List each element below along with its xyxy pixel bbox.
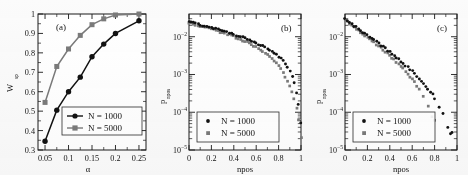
data-point [390, 53, 393, 56]
panel-c-ylabel: p npos [313, 89, 327, 104]
data-point [348, 21, 351, 24]
data-point [250, 40, 253, 43]
data-point [407, 73, 410, 76]
b-ytick-label: 10−2 [173, 31, 187, 42]
data-point [282, 59, 285, 62]
panel-a-ytick-label: 0.8 [25, 49, 35, 58]
data-point [78, 74, 83, 79]
c-ytick-label: 10−3 [329, 68, 343, 79]
data-point [402, 62, 405, 65]
data-point [297, 103, 300, 106]
panel-a-ytick-label: 0.3 [25, 146, 35, 155]
data-point [415, 75, 418, 78]
svg-text:−5: −5 [181, 144, 187, 150]
c-ytick-label: 10−2 [329, 31, 343, 42]
data-point [372, 38, 375, 41]
data-point [395, 57, 398, 60]
c-xtick-label: 0.6 [407, 154, 417, 163]
svg-text:−5: −5 [337, 144, 343, 150]
data-point [424, 85, 427, 88]
c-xtick-label: 0.2 [362, 154, 372, 163]
data-point [401, 67, 404, 70]
data-point [422, 82, 425, 85]
panel-b: 10−210−310−410−5 00.20.40.60.81 (b) p np… [155, 0, 311, 175]
data-point [261, 50, 264, 53]
data-point [43, 100, 48, 105]
data-point [208, 26, 211, 29]
legend-marker-n5000 [362, 131, 366, 135]
c-xtick-label: 0.8 [429, 154, 439, 163]
legend-marker-n5000 [72, 125, 77, 130]
data-point [90, 22, 95, 27]
data-point [268, 49, 271, 52]
panel-b-tag: (b) [281, 23, 292, 33]
data-point [252, 45, 255, 48]
data-point [442, 112, 445, 115]
data-point [422, 95, 425, 98]
data-point [413, 80, 416, 83]
b-xtick-label: 0.8 [273, 154, 283, 163]
data-point [194, 24, 197, 27]
panel-a-ylabel: W sp [5, 74, 19, 92]
svg-text:10: 10 [329, 146, 337, 155]
data-point [411, 69, 414, 72]
legend-marker-n1000 [362, 119, 366, 123]
data-point [451, 131, 454, 134]
svg-text:10: 10 [173, 146, 181, 155]
data-point [408, 68, 411, 71]
data-point [54, 107, 59, 112]
data-point [113, 12, 118, 17]
data-point [284, 63, 287, 66]
b-xtick-label: 0.6 [251, 154, 261, 163]
c-ytick-label: 10−4 [329, 106, 343, 117]
data-point [291, 75, 294, 78]
data-point [397, 57, 400, 60]
legend-marker-n1000 [72, 113, 77, 118]
data-point [407, 65, 410, 68]
data-point [254, 42, 257, 45]
data-point [278, 64, 281, 67]
data-point [286, 80, 289, 83]
data-point [296, 107, 299, 110]
panel-b-legend: N = 1000 N = 5000 [197, 112, 279, 142]
svg-text:10: 10 [329, 108, 337, 117]
panel-c-ylabel-text: p [313, 100, 323, 104]
c-xtick-label: 0 [343, 154, 347, 163]
svg-text:−3: −3 [181, 68, 187, 74]
data-point [54, 64, 59, 69]
data-point [389, 50, 392, 53]
svg-text:10: 10 [173, 70, 181, 79]
data-point [280, 57, 283, 60]
data-point [418, 88, 421, 91]
data-point [293, 81, 296, 84]
legend-marker-n5000 [206, 131, 210, 135]
data-point [386, 50, 389, 53]
data-point [343, 17, 346, 20]
panel-a-legend: N = 1000 N = 5000 [62, 107, 142, 135]
data-point [292, 97, 295, 100]
data-point [275, 61, 278, 64]
data-point [355, 25, 358, 28]
figure-container: 0.30.40.50.60.70.80.91 0.050.10.150.20.2… [0, 0, 468, 175]
data-point [351, 22, 354, 25]
legend-label-n5000: N = 5000 [377, 128, 412, 138]
data-point [136, 12, 141, 17]
b-xtick-label: 0 [187, 154, 191, 163]
data-point [297, 119, 300, 122]
data-point [66, 89, 71, 94]
data-point [288, 85, 291, 88]
data-point [300, 136, 303, 139]
panel-a-xtick-label: 0.05 [38, 154, 52, 163]
b-ytick-label: 10−3 [173, 68, 187, 79]
data-point [113, 31, 118, 36]
data-point [42, 139, 47, 144]
data-point [214, 27, 217, 30]
b-ytick-label: 10−4 [173, 106, 187, 117]
data-point [66, 46, 71, 51]
data-point [243, 40, 246, 43]
panel-c-xlabel: npos [393, 164, 410, 174]
svg-text:−2: −2 [181, 31, 187, 37]
panel-a-ytick-label: 0.7 [25, 68, 35, 77]
svg-text:−4: −4 [337, 106, 343, 112]
panel-a-xtick-label: 0.25 [132, 154, 146, 163]
